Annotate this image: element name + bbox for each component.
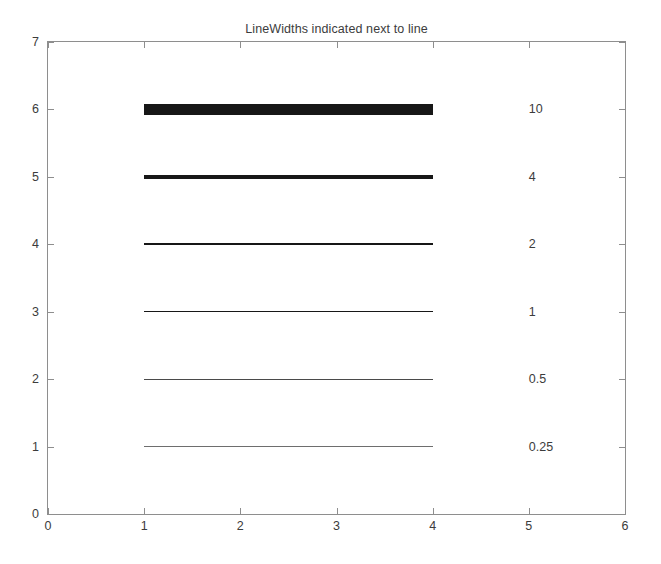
linewidth-annotation: 4: [529, 170, 536, 184]
figure-canvas: LineWidths indicated next to line 012345…: [0, 0, 661, 564]
x-axis-tick-label: 3: [333, 519, 340, 533]
y-axis-tick-mark: [48, 379, 54, 380]
y-axis-tick-mark: [48, 312, 54, 313]
linewidth-annotation: 1: [529, 305, 536, 319]
y-axis-tick-mark: [48, 244, 54, 245]
y-axis-tick-mark-right: [619, 312, 625, 313]
x-axis-tick-mark: [337, 508, 338, 514]
linewidth-annotation: 0.5: [529, 372, 546, 386]
y-axis-tick-mark: [48, 514, 54, 515]
y-axis-tick-mark: [48, 177, 54, 178]
y-axis-tick-label: 2: [5, 372, 39, 386]
y-axis-tick-mark-right: [619, 244, 625, 245]
x-axis-tick-mark-top: [337, 42, 338, 48]
data-line: [144, 311, 433, 312]
data-line: [144, 243, 433, 245]
x-axis-tick-label: 4: [429, 519, 436, 533]
data-line: [144, 175, 433, 180]
y-axis-tick-mark: [48, 109, 54, 110]
x-axis-tick-mark: [144, 508, 145, 514]
y-axis-tick-label: 0: [5, 507, 39, 521]
x-axis-tick-mark-top: [144, 42, 145, 48]
x-axis-tick-mark-top: [240, 42, 241, 48]
y-axis-tick-mark-right: [619, 379, 625, 380]
y-axis-tick-label: 3: [5, 305, 39, 319]
x-axis-tick-mark-top: [529, 42, 530, 48]
y-axis-tick-mark-right: [619, 447, 625, 448]
page-title: LineWidths indicated next to line: [47, 22, 626, 36]
y-axis-tick-label: 7: [5, 35, 39, 49]
y-axis-tick-label: 6: [5, 102, 39, 116]
y-axis-tick-label: 5: [5, 170, 39, 184]
y-axis-tick-label: 1: [5, 440, 39, 454]
x-axis-tick-mark: [529, 508, 530, 514]
x-axis-tick-mark: [240, 508, 241, 514]
y-axis-tick-mark-right: [619, 177, 625, 178]
x-axis-tick-label: 5: [525, 519, 532, 533]
x-axis-tick-mark-top: [625, 42, 626, 48]
data-line: [144, 379, 433, 380]
x-axis-tick-label: 6: [622, 519, 629, 533]
data-line: [144, 104, 433, 116]
x-axis-tick-label: 1: [141, 519, 148, 533]
y-axis-tick-mark: [48, 447, 54, 448]
x-axis-tick-mark-top: [433, 42, 434, 48]
y-axis-tick-label: 4: [5, 237, 39, 251]
x-axis-tick-label: 0: [45, 519, 52, 533]
x-axis-tick-mark: [625, 508, 626, 514]
y-axis-tick-mark-right: [619, 514, 625, 515]
x-axis-tick-label: 2: [237, 519, 244, 533]
data-line: [144, 446, 433, 447]
y-axis-tick-mark: [48, 42, 54, 43]
linewidth-annotation: 10: [529, 102, 543, 116]
y-axis-tick-mark-right: [619, 42, 625, 43]
linewidth-annotation: 0.25: [529, 440, 553, 454]
x-axis-tick-mark: [433, 508, 434, 514]
linewidth-annotation: 2: [529, 237, 536, 251]
y-axis-tick-mark-right: [619, 109, 625, 110]
